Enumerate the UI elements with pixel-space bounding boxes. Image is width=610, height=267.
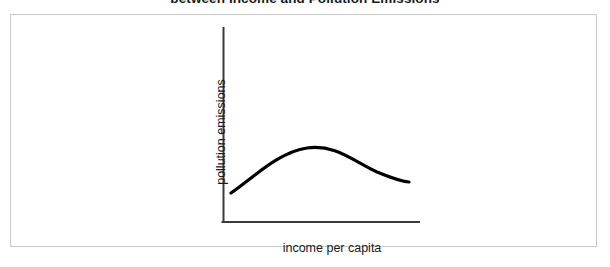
chart-frame: pollution emissions income per capita [10, 14, 597, 247]
plot-area [11, 15, 598, 248]
data-curve-pollution-vs-income [231, 147, 409, 193]
y-axis-label: pollution emissions [214, 62, 228, 202]
chart-plot-svg [11, 15, 598, 248]
figure-title: between Income and Pollution Emissions [0, 0, 610, 6]
x-axis-label: income per capita [233, 241, 431, 255]
